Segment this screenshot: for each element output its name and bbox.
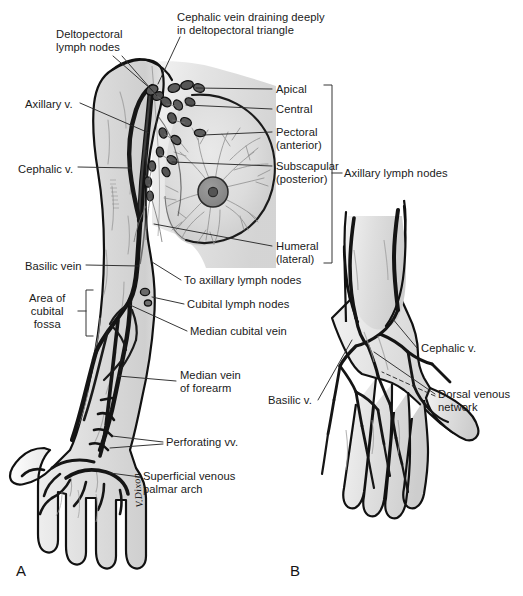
label-basilic-v-b: Basilic v. bbox=[268, 394, 312, 407]
label-apical: Apical bbox=[276, 83, 307, 96]
label-axillary-v: Axillary v. bbox=[25, 98, 73, 111]
label-superficial-venous-palmar-arch: Superficial venous palmar arch bbox=[143, 470, 235, 496]
nipple bbox=[208, 187, 217, 196]
label-cephalic-v: Cephalic v. bbox=[18, 163, 73, 176]
label-axillary-lymph-nodes: Axillary lymph nodes bbox=[344, 167, 448, 180]
label-deltopectoral-lymph-nodes: Deltopectoral lymph nodes bbox=[56, 28, 123, 54]
node-humeral-2 bbox=[144, 177, 152, 188]
node-cubital-1 bbox=[140, 288, 149, 295]
label-pectoral-anterior: Pectoral (anterior) bbox=[276, 126, 322, 152]
label-basilic-vein: Basilic vein bbox=[25, 260, 82, 273]
anatomy-figure: Deltopectoral lymph nodes Cephalic vein … bbox=[0, 0, 523, 596]
node-cubital-2 bbox=[144, 300, 151, 306]
label-cephalic-v-b: Cephalic v. bbox=[421, 342, 476, 355]
panel-label-b: B bbox=[290, 562, 300, 579]
label-dorsal-venous-network: Dorsal venous network bbox=[438, 388, 510, 414]
leader-cubital-nodes bbox=[152, 297, 184, 304]
leader-to-axillary-nodes bbox=[152, 262, 181, 280]
label-subscapular-posterior: Subscapular (posterior) bbox=[276, 160, 339, 186]
bracket-cubital-fossa bbox=[86, 290, 93, 336]
label-median-vein-of-forearm: Median vein of forearm bbox=[180, 369, 241, 395]
panel-b-artwork bbox=[322, 200, 478, 518]
label-cephalic-vein-deltopectoral: Cephalic vein draining deeply in deltope… bbox=[177, 11, 325, 37]
node-pectoral-3 bbox=[194, 129, 206, 137]
label-area-of-cubital-fossa: Area of cubital fossa bbox=[29, 292, 65, 331]
label-perforating-vv: Perforating vv. bbox=[166, 436, 238, 449]
label-central: Central bbox=[276, 103, 312, 116]
label-humeral-lateral: Humeral (lateral) bbox=[276, 240, 319, 266]
label-cubital-lymph-nodes: Cubital lymph nodes bbox=[187, 298, 289, 311]
panel-label-a: A bbox=[16, 562, 26, 579]
label-median-cubital-vein: Median cubital vein bbox=[190, 325, 287, 338]
label-to-axillary-lymph-nodes: To axillary lymph nodes bbox=[184, 274, 301, 287]
